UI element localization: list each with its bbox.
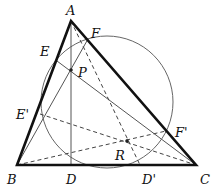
label-D: D xyxy=(65,172,77,187)
geometry-diagram: A B C D E F P E' F' D' R xyxy=(0,0,220,189)
label-B: B xyxy=(6,172,17,187)
label-F-prime: F' xyxy=(174,125,188,140)
dashed-BF-prime xyxy=(17,131,166,165)
label-E-prime: E' xyxy=(15,107,29,122)
label-E: E xyxy=(39,44,50,59)
label-F: F xyxy=(90,26,101,41)
point-R xyxy=(125,139,129,143)
line-BF xyxy=(17,39,88,165)
label-A: A xyxy=(65,3,75,18)
label-P: P xyxy=(77,65,87,80)
point-P xyxy=(69,68,73,72)
label-C: C xyxy=(200,172,210,187)
label-R: R xyxy=(114,148,125,163)
triangle-ABC xyxy=(17,21,196,165)
label-D-prime: D' xyxy=(141,172,156,187)
circle xyxy=(41,36,173,168)
